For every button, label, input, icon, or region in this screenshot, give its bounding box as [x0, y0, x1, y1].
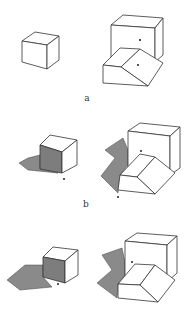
panel-a-left-cube	[22, 32, 59, 69]
panel-b-left-cube	[19, 135, 77, 180]
panel-c-right-group	[97, 233, 177, 302]
figure-drawing	[0, 0, 191, 315]
panel-b-right-group	[101, 123, 180, 198]
panel-label-a: a	[84, 93, 89, 103]
figure-canvas: a b	[0, 0, 191, 315]
panel-c-left-cube	[7, 247, 78, 290]
panel-label-b: b	[83, 199, 89, 209]
